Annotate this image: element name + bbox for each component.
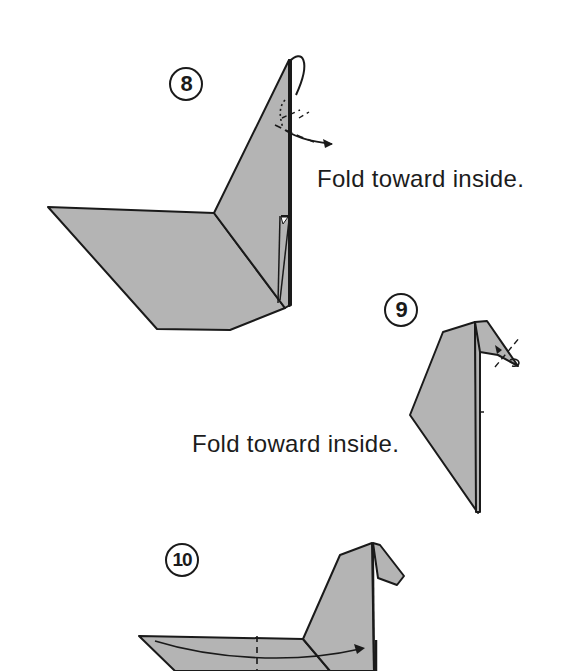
step-10-head	[373, 543, 404, 585]
step-8-caption: Fold toward inside.	[317, 165, 524, 193]
step-number-10-label: 10	[172, 549, 191, 571]
step-10-neck	[303, 543, 374, 671]
step-9-caption: Fold toward inside.	[192, 430, 399, 458]
step-number-9-label: 9	[395, 297, 406, 323]
step-number-9: 9	[384, 293, 418, 327]
step-8-neck-back	[289, 60, 291, 306]
step-number-8-label: 8	[180, 71, 191, 97]
origami-diagram	[0, 0, 588, 671]
step-10-body	[139, 636, 330, 671]
step-number-8: 8	[169, 67, 203, 101]
step-number-10: 10	[165, 543, 199, 577]
step-9-body	[410, 322, 478, 513]
step-9-figure	[410, 321, 520, 513]
